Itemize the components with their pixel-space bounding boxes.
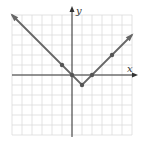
data-point <box>80 83 84 87</box>
data-point <box>70 73 74 77</box>
data-point <box>60 63 64 67</box>
y-axis-label: y <box>75 5 82 16</box>
graph: x y <box>0 0 143 141</box>
data-point <box>110 53 114 57</box>
axes <box>12 6 138 137</box>
data-point <box>90 73 94 77</box>
x-axis-label: x <box>127 63 133 74</box>
